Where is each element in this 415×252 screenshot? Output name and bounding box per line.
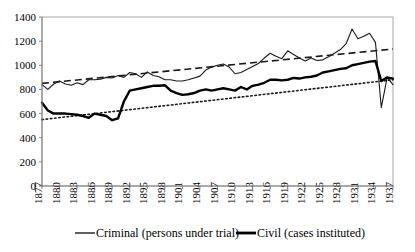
x-axis-tick-label: 1880 xyxy=(50,182,62,205)
x-axis-tick-label: 1904 xyxy=(190,182,202,205)
x-axis-tick-label: 1925 xyxy=(313,182,325,205)
x-axis-tick-label: 1895 xyxy=(137,182,149,205)
line-chart: 0200400600800100012001400 18771880188318… xyxy=(0,0,415,252)
x-axis-tick-label: 1910 xyxy=(225,182,237,205)
x-axis-tick-label: 1901 xyxy=(172,182,184,204)
chart-legend: Criminal (persons under trial)Civil (cas… xyxy=(75,226,365,240)
x-axis-tick-label: 1934 xyxy=(365,182,377,205)
x-axis-tick-label: 1889 xyxy=(102,182,114,205)
x-axis-tick-label: 1937 xyxy=(383,182,395,205)
y-axis-tick-label: 800 xyxy=(20,83,37,95)
legend-label-criminal: Criminal (persons under trial) xyxy=(96,226,239,240)
y-axis-tick-label: 400 xyxy=(20,132,37,144)
x-axis-tick-label: 1892 xyxy=(120,182,132,204)
legend-label-civil: Civil (cases instituted) xyxy=(257,226,365,240)
chart-container: 0200400600800100012001400 18771880188318… xyxy=(0,0,415,252)
x-axis-tick-label: 1928 xyxy=(330,182,342,205)
x-axis-tick-label: 1922 xyxy=(295,182,307,204)
y-axis-tick-label: 1400 xyxy=(14,11,37,23)
x-axis-ticks: 1877188018831886188918921895189819011904… xyxy=(32,182,395,205)
x-axis-tick-label: 1883 xyxy=(67,182,79,205)
y-axis-tick-label: 1200 xyxy=(14,35,37,47)
x-axis-tick-label: 1886 xyxy=(85,182,97,205)
x-axis-tick-label: 1907 xyxy=(208,182,220,205)
x-axis-tick-label: 1913 xyxy=(243,182,255,205)
x-axis-tick-label: 1919 xyxy=(278,182,290,205)
chart-background xyxy=(0,0,415,252)
x-axis-tick-label: 1916 xyxy=(260,182,272,205)
y-axis-tick-label: 600 xyxy=(20,108,37,120)
x-axis-tick-label: 1931 xyxy=(348,182,360,204)
y-axis-tick-label: 1000 xyxy=(14,59,37,71)
x-axis-tick-label: 1898 xyxy=(155,182,167,205)
y-axis-tick-label: 200 xyxy=(20,156,37,168)
